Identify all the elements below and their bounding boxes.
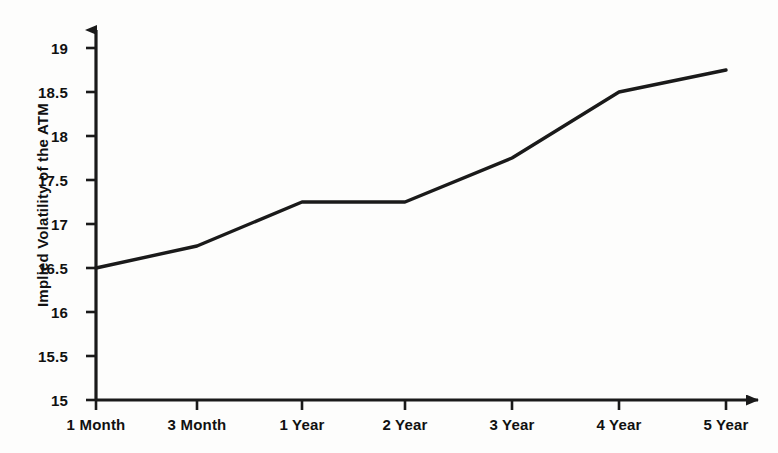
volatility-curve [96,70,726,268]
x-axis [96,400,758,410]
implied-volatility-chart: 15 15.5 16 16.5 17 17.5 18 18.5 19 1 Mon… [0,0,778,453]
x-tick-label-2-year: 2 Year [382,416,427,433]
x-tick-label-5-year: 5 Year [703,416,748,433]
y-tick-label-18-5: 18.5 [6,84,68,101]
y-tick-label-19: 19 [6,40,68,57]
y-axis [86,30,96,400]
y-axis-title: Implied Volatility of the ATM [34,103,51,307]
x-tick-label-3-year: 3 Year [489,416,534,433]
x-tick-label-3-month: 3 Month [168,416,227,433]
chart-plot-area [0,0,778,453]
y-tick-label-15-5: 15.5 [6,348,68,365]
x-tick-label-1-year: 1 Year [279,416,324,433]
x-tick-label-4-year: 4 Year [596,416,641,433]
y-tick-label-15: 15 [6,392,68,409]
x-tick-label-1-month: 1 Month [67,416,126,433]
